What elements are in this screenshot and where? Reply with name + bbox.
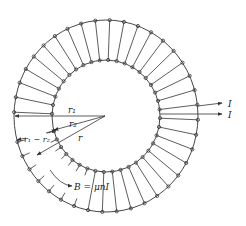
winding-line bbox=[112, 172, 116, 212]
winding-line bbox=[61, 154, 66, 159]
toroid-figure: r₁ r₂ r r₁ − r₂ B = μnI I I bbox=[0, 0, 246, 226]
winding-line bbox=[121, 170, 131, 209]
r1-minus-r2-label: r₁ − r₂ bbox=[24, 135, 50, 144]
winding-line bbox=[81, 24, 91, 63]
winding-line bbox=[20, 83, 56, 97]
winding-line bbox=[146, 51, 174, 78]
winding-line bbox=[148, 151, 178, 176]
winding-line bbox=[125, 26, 138, 64]
winding-line bbox=[160, 105, 198, 110]
winding-line bbox=[14, 112, 52, 114]
winding-line bbox=[153, 143, 186, 163]
winding-line bbox=[143, 157, 169, 186]
winding-line bbox=[44, 46, 70, 75]
winding-line bbox=[157, 135, 193, 149]
toroid-diagram: r₁ r₂ r r₁ − r₂ B = μnI I I bbox=[0, 0, 246, 226]
r2-label: r₂ bbox=[69, 119, 77, 129]
winding-line bbox=[30, 165, 37, 170]
winding-line bbox=[55, 147, 61, 151]
current-lead-in bbox=[198, 103, 222, 106]
r-label: r bbox=[78, 133, 83, 143]
r1-label: r₁ bbox=[68, 105, 76, 115]
winding-line bbox=[34, 57, 64, 82]
field-arc-arrow bbox=[50, 170, 72, 186]
field-label: B = μnI bbox=[73, 182, 110, 192]
winding-line bbox=[158, 90, 195, 101]
winding-line bbox=[160, 118, 198, 120]
winding-line bbox=[68, 160, 72, 166]
winding-line bbox=[95, 21, 99, 61]
winding-line bbox=[140, 41, 164, 72]
winding-line bbox=[16, 97, 53, 105]
current-out-label: I bbox=[227, 110, 232, 120]
winding-line bbox=[26, 69, 59, 89]
winding-line bbox=[49, 185, 54, 191]
winding-line bbox=[117, 22, 124, 61]
r2-arrow bbox=[54, 116, 105, 130]
winding-line bbox=[159, 127, 196, 135]
winding-line bbox=[132, 32, 151, 67]
winding-line bbox=[108, 20, 110, 60]
winding-line bbox=[38, 176, 44, 181]
current-in-label: I bbox=[227, 99, 232, 109]
